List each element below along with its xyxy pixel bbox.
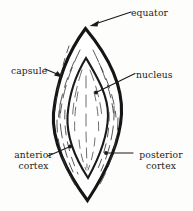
label-capsule: capsule xyxy=(11,65,47,76)
lens-diagram-svg xyxy=(0,0,193,211)
label-posterior-cortex-line2: cortex xyxy=(135,160,187,171)
label-anterior-cortex-line1: anterior xyxy=(10,149,57,160)
label-nucleus: nucleus xyxy=(136,69,173,80)
lens-anatomy-figure: equator capsule nucleus anterior cortex … xyxy=(0,0,193,211)
label-anterior-cortex: anterior cortex xyxy=(10,149,57,171)
label-posterior-cortex-line1: posterior xyxy=(135,149,187,160)
equator-leader xyxy=(90,12,132,27)
label-posterior-cortex: posterior cortex xyxy=(135,149,187,171)
label-anterior-cortex-line2: cortex xyxy=(10,160,57,171)
label-equator: equator xyxy=(131,7,168,18)
capsule-leader xyxy=(45,69,63,78)
